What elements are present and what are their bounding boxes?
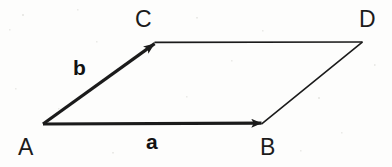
vertex-label-b: B xyxy=(260,136,275,159)
vertex-label-c: C xyxy=(135,8,152,31)
vertex-label-d: D xyxy=(359,8,376,31)
vector-a-arrow xyxy=(43,123,262,124)
vector-label-b: b xyxy=(73,57,86,78)
edge-b-d xyxy=(262,42,362,123)
vector-b-arrow xyxy=(43,44,155,124)
parallelogram-drawing-canvas xyxy=(0,0,392,167)
vertex-label-a: A xyxy=(18,136,33,159)
vector-label-a: a xyxy=(146,131,158,152)
vector-parallelogram-figure: A B C D a b xyxy=(0,0,392,167)
